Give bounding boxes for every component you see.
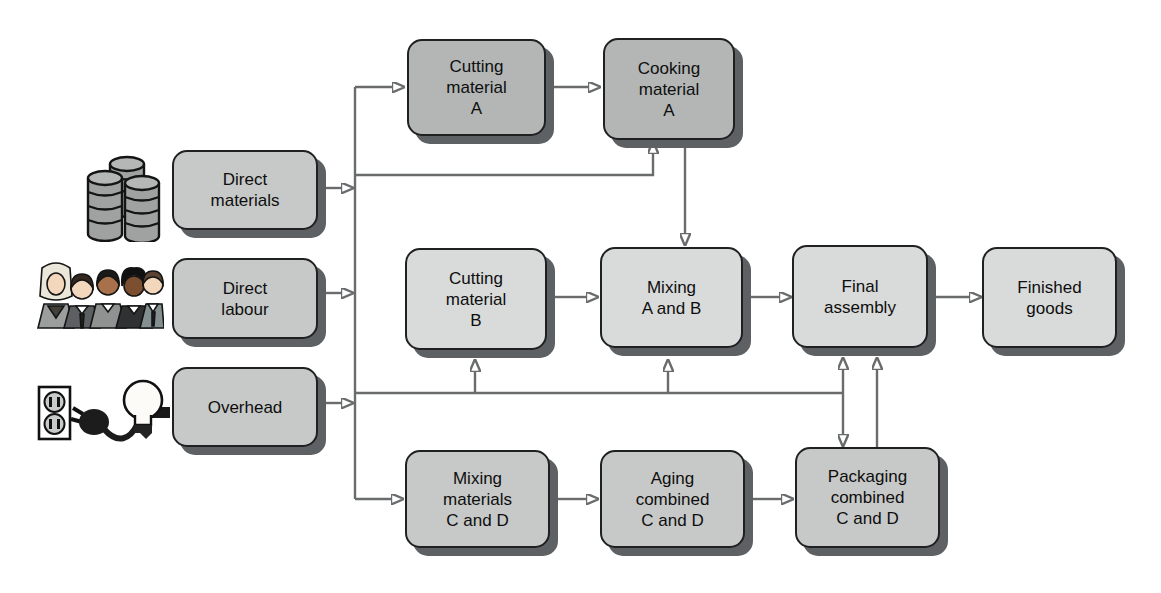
node-finished-goods-label: Finished goods xyxy=(1017,277,1081,319)
workers-icon xyxy=(36,262,164,334)
node-packaging-combined-c-and-d: Packaging combined C and D xyxy=(795,447,940,548)
node-cutting-material-a: Cutting material A xyxy=(407,39,546,136)
node-final-assembly-label: Final assembly xyxy=(824,276,896,318)
process-flow-diagram: Direct materials Direct labour Overhead … xyxy=(0,0,1161,593)
node-cutting-material-a-label: Cutting material A xyxy=(446,56,506,119)
node-mixing-a-and-b-label: Mixing A and B xyxy=(642,277,702,319)
node-cooking-material-a-label: Cooking material A xyxy=(638,58,700,121)
node-cutting-material-b: Cutting material B xyxy=(405,248,547,350)
node-finished-goods: Finished goods xyxy=(982,247,1117,348)
node-direct-materials-label: Direct materials xyxy=(211,169,280,211)
node-direct-labour-label: Direct labour xyxy=(221,278,268,320)
node-mixing-a-and-b: Mixing A and B xyxy=(600,247,743,348)
node-packaging-combined-c-and-d-label: Packaging combined C and D xyxy=(828,466,907,529)
node-cooking-material-a: Cooking material A xyxy=(603,38,735,140)
plug-lightbulb-icon xyxy=(36,377,170,449)
node-mixing-materials-c-and-d-label: Mixing materials C and D xyxy=(443,468,512,531)
node-final-assembly: Final assembly xyxy=(792,245,928,348)
node-aging-combined-c-and-d: Aging combined C and D xyxy=(600,450,745,548)
node-overhead-label: Overhead xyxy=(208,397,283,418)
node-direct-materials: Direct materials xyxy=(172,150,318,230)
node-direct-labour: Direct labour xyxy=(172,258,318,339)
node-mixing-materials-c-and-d: Mixing materials C and D xyxy=(405,450,550,548)
oil-drums-icon xyxy=(80,152,166,246)
node-overhead: Overhead xyxy=(172,367,318,447)
node-cutting-material-b-label: Cutting material B xyxy=(446,268,506,331)
connector-bus-to-cooking-a xyxy=(355,154,653,175)
node-aging-combined-c-and-d-label: Aging combined C and D xyxy=(636,468,710,531)
